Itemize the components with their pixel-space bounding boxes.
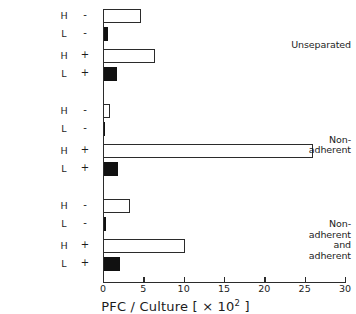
axis-baseline [103, 9, 104, 282]
row-label-celltype: L [58, 29, 70, 39]
row-label-celltype: H [58, 106, 70, 116]
row-label-celltype: L [58, 259, 70, 269]
bar [103, 257, 120, 271]
row-label-celltype: H [58, 146, 70, 156]
x-tick-label: 5 [132, 284, 154, 294]
row-label-treatment: + [79, 68, 91, 78]
row-label-celltype: L [58, 164, 70, 174]
x-tick [305, 277, 306, 282]
x-tick-label: 25 [294, 284, 316, 294]
row-label-treatment: + [79, 145, 91, 155]
row-label-celltype: L [58, 69, 70, 79]
x-axis-title-main: PFC / Culture [ × 10 [101, 299, 234, 314]
group-label: Unseparated [289, 40, 351, 51]
row-label-celltype: H [58, 241, 70, 251]
row-label-celltype: H [58, 51, 70, 61]
row-label-treatment: - [79, 218, 91, 228]
x-tick-label: 20 [253, 284, 275, 294]
x-tick-label: 10 [173, 284, 195, 294]
row-label-celltype: H [58, 11, 70, 21]
row-label-celltype: L [58, 124, 70, 134]
bar [103, 239, 185, 253]
x-tick [345, 277, 346, 282]
row-label-treatment: - [79, 105, 91, 115]
x-axis-title: PFC / Culture [ × 102 ] [0, 298, 351, 314]
x-tick [143, 277, 144, 282]
row-label-celltype: H [58, 201, 70, 211]
row-label-treatment: - [79, 123, 91, 133]
x-tick [103, 277, 104, 282]
row-label-treatment: - [79, 28, 91, 38]
bar [103, 144, 313, 158]
bar [103, 199, 130, 213]
bar [103, 67, 117, 81]
x-tick [264, 277, 265, 282]
bar [103, 9, 141, 23]
x-axis-title-tail: ] [240, 299, 250, 314]
row-label-celltype: L [58, 219, 70, 229]
bar [103, 162, 118, 176]
x-tick [184, 277, 185, 282]
row-label-treatment: - [79, 10, 91, 20]
x-tick-label: 0 [92, 284, 114, 294]
row-label-treatment: + [79, 240, 91, 250]
group-label: Non-adherent and adherent [289, 219, 351, 261]
row-label-treatment: + [79, 163, 91, 173]
x-tick-label: 15 [213, 284, 235, 294]
row-label-treatment: - [79, 200, 91, 210]
bar [103, 49, 155, 63]
x-tick-label: 30 [334, 284, 356, 294]
row-label-treatment: + [79, 50, 91, 60]
x-tick [224, 277, 225, 282]
row-label-treatment: + [79, 258, 91, 268]
group-label: Non-adherent [289, 135, 351, 156]
